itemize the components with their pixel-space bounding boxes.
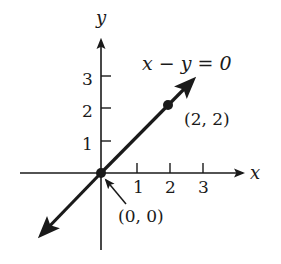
point-origin <box>96 168 106 178</box>
origin-pointer-arrow <box>106 180 126 204</box>
point-2-2 <box>163 100 173 110</box>
y-axis-label: y <box>95 7 107 28</box>
line-x-minus-y-lower <box>41 173 101 235</box>
x-tick-label-3: 3 <box>198 177 209 197</box>
x-ticks <box>137 163 203 173</box>
line-x-minus-y <box>101 80 193 173</box>
y-ticks <box>101 76 111 141</box>
y-tick-label-3: 3 <box>82 69 93 89</box>
equation-label: x − y = 0 <box>142 52 232 74</box>
x-axis-label: x <box>250 162 260 183</box>
y-tick-label-1: 1 <box>82 134 93 154</box>
point-label-origin: (0, 0) <box>118 206 164 226</box>
graph-canvas: 1 2 3 1 2 3 x y x − y = 0 (2, 2) (0, 0) <box>0 0 281 264</box>
x-tick-label-2: 2 <box>165 177 176 197</box>
y-tick-label-2: 2 <box>82 101 93 121</box>
point-label-2-2: (2, 2) <box>184 109 230 129</box>
x-tick-label-1: 1 <box>133 177 144 197</box>
